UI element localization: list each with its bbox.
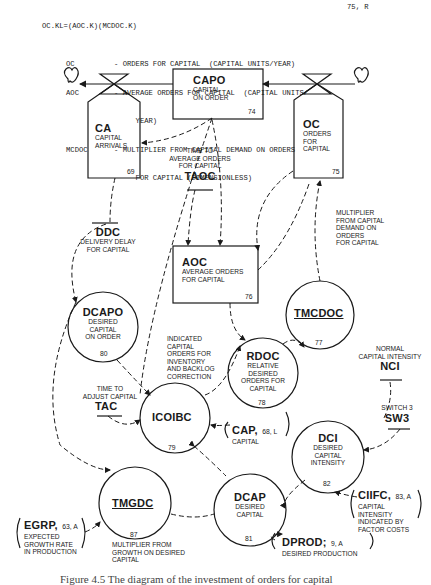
- node-rdoc: RDOC RELATIVE DESIRED ORDERS FOR CAPITAL: [233, 350, 293, 392]
- node-capo-number: 74: [248, 108, 256, 115]
- node-dci: DCI DESIRED CAPITAL INTENSITY: [298, 432, 358, 467]
- source-cloud-right-icon: [354, 68, 368, 82]
- constant-taoc: TIME TO AVERAGE ORDERS FOR CAPITAL TAOC: [163, 147, 237, 182]
- node-dcap-number: 81: [245, 535, 253, 542]
- sink-cloud-left-icon: [64, 68, 78, 82]
- node-icoibc-desc: INDICATED CAPITAL ORDERS FOR INVENTORY A…: [167, 335, 215, 381]
- external-dprod: DPROD; 9, A DESIRED PRODUCTION: [282, 532, 357, 558]
- node-tmcdoc-number: 77: [315, 339, 323, 346]
- node-dci-number: 82: [323, 480, 331, 487]
- node-tmgdc-desc: MULTIPLIER FROM GROWTH ON DESIRED CAPITA…: [112, 541, 185, 564]
- node-ca-number: 69: [127, 168, 135, 175]
- external-ciifc: CIIFC, 83, A CAPITAL INTENSITY INDICATED…: [358, 485, 411, 533]
- node-rdoc-number: 78: [258, 399, 266, 406]
- external-cap: CAP, 68, L CAPITAL: [232, 420, 277, 446]
- node-tmcdoc: TMCDOC: [294, 307, 343, 319]
- node-dcap: DCAP DESIRED CAPITAL: [220, 491, 280, 518]
- node-icoibc: ICOIBC: [152, 411, 192, 423]
- node-oc: OC ORDERS FOR CAPITAL: [303, 118, 331, 153]
- figure-caption: Figure 4.5 The diagram of the investment…: [60, 573, 333, 585]
- node-dcapo: DCAPO DESIRED CAPITAL ON ORDER: [73, 306, 133, 341]
- node-icoibc-number: 79: [168, 444, 176, 451]
- node-aoc-number: 76: [245, 293, 253, 300]
- node-dcapo-number: 80: [100, 350, 108, 357]
- node-tmgdc-number: 87: [130, 531, 138, 538]
- node-ca: CA CAPITAL ARRIVALS: [95, 122, 127, 149]
- node-capo: CAPO CAPITAL ON ORDER: [193, 74, 229, 101]
- constant-ddc: DDC DELIVERY DELAY FOR CAPITAL: [78, 226, 138, 253]
- node-capo-desc: CAPITAL ON ORDER: [193, 86, 229, 101]
- node-oc-number: 75: [332, 168, 340, 175]
- constant-sw3: SWITCH 3 SW3: [372, 404, 422, 424]
- external-egrp: EGRP, 63, A EXPECTED GROWTH RATE IN PROD…: [24, 515, 78, 556]
- constant-tac: TIME TO ADJUST CAPITAL TAC: [75, 385, 145, 412]
- constant-nci: NORMAL CAPITAL INTENSITY NCI: [350, 345, 430, 372]
- node-tmcdoc-desc: MULTIPLIER FROM CAPITAL DEMAND ON ORDERS…: [336, 209, 384, 247]
- node-tmgdc: TMGDC: [112, 497, 153, 509]
- node-aoc: AOC AVERAGE ORDERS FOR CAPITAL: [182, 256, 243, 283]
